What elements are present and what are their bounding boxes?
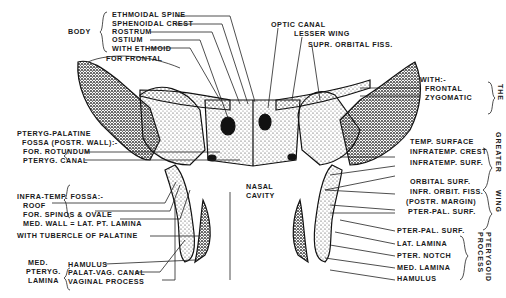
label-frontal: FRONTAL	[425, 85, 462, 93]
label-infratemp-surf: INFRATEMP. SURF.	[410, 159, 483, 167]
label-ethmoidal-spine: ETHMOIDAL SPINE	[112, 11, 186, 19]
label-hamulus-right: HAMULUS	[397, 275, 436, 283]
label-for-frontal: FOR FRONTAL	[106, 55, 162, 63]
wing-title: WING	[494, 190, 502, 213]
label-med-wall: MED. WALL = LAT. PT. LAMINA	[23, 220, 142, 228]
label-med-lamina: MED. LAMINA	[397, 264, 450, 272]
label-ostium: OSTIUM	[112, 36, 143, 44]
pteryg-title: PTERYG.	[26, 268, 61, 276]
label-temp-surface: TEMP. SURFACE	[410, 138, 474, 146]
greater-title: GREATER	[494, 132, 502, 173]
label-nasal: NASAL	[246, 183, 273, 191]
pterygoid-process-title: PTERYGOID PROCESS	[474, 232, 492, 298]
label-infr-orbit-fiss: INFR. ORBIT. FISS.	[410, 188, 483, 196]
lamina-title: LAMINA	[28, 277, 59, 285]
label-with: WITH:-	[420, 76, 446, 84]
label-with-ethmoid: WITH ETHMOID	[112, 45, 172, 53]
med-title: MED.	[28, 259, 48, 267]
body-title: BODY	[68, 28, 91, 36]
label-pter-pal-surf-process: PTER-PAL. SURF.	[397, 227, 465, 235]
label-roof: ROOF	[23, 202, 46, 210]
infra-temp-title: INFRA-TEMP. FOSSA:-	[17, 193, 103, 201]
label-for-rotundum: FOR. ROTUNDUM	[23, 148, 91, 156]
pterygo-palatine-subtitle: FOSSA (POSTR. WALL):-	[22, 139, 118, 147]
label-pter-notch: PTER. NOTCH	[397, 252, 451, 260]
sphenoid-diagram: BODY ETHMOIDAL SPINE SPHENOIDAL CREST RO…	[0, 0, 506, 298]
label-vaginal-process: VAGINAL PROCESS	[68, 278, 144, 286]
label-optic-canal: OPTIC CANAL	[271, 21, 326, 29]
the-title: THE	[496, 84, 504, 101]
label-orbital-surf: ORBITAL SURF.	[410, 178, 471, 186]
label-postr-margin: (POSTR. MARGIN)	[406, 198, 476, 206]
label-supr-orbital-fiss: SUPR. ORBITAL FISS.	[308, 41, 393, 49]
label-pter-pal-surf-wing: PTER-PAL. SURF.	[408, 208, 476, 216]
label-pteryg-canal: PTERYG. CANAL	[23, 157, 88, 165]
label-lesser-wing: LESSER WING	[294, 30, 350, 38]
label-zygomatic: ZYGOMATIC	[425, 94, 472, 102]
label-infratemp-crest: INFRATEMP. CREST	[410, 148, 487, 156]
label-lat-lamina: LAT. LAMINA	[397, 240, 447, 248]
label-palat-vag-canal: PALAT-VAG. CANAL	[68, 269, 145, 277]
label-with-tubercle-of-palatine: WITH TUBERCLE OF PALATINE	[17, 232, 138, 240]
label-for-spinos-ovale: FOR. SPINOS & OVALE	[23, 211, 112, 219]
label-cavity: CAVITY	[246, 192, 275, 200]
pterygo-palatine-title: PTERYG-PALATINE	[17, 130, 91, 138]
